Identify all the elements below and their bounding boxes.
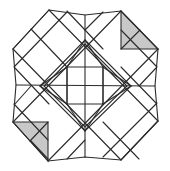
geometric-diagram bbox=[0, 0, 170, 171]
